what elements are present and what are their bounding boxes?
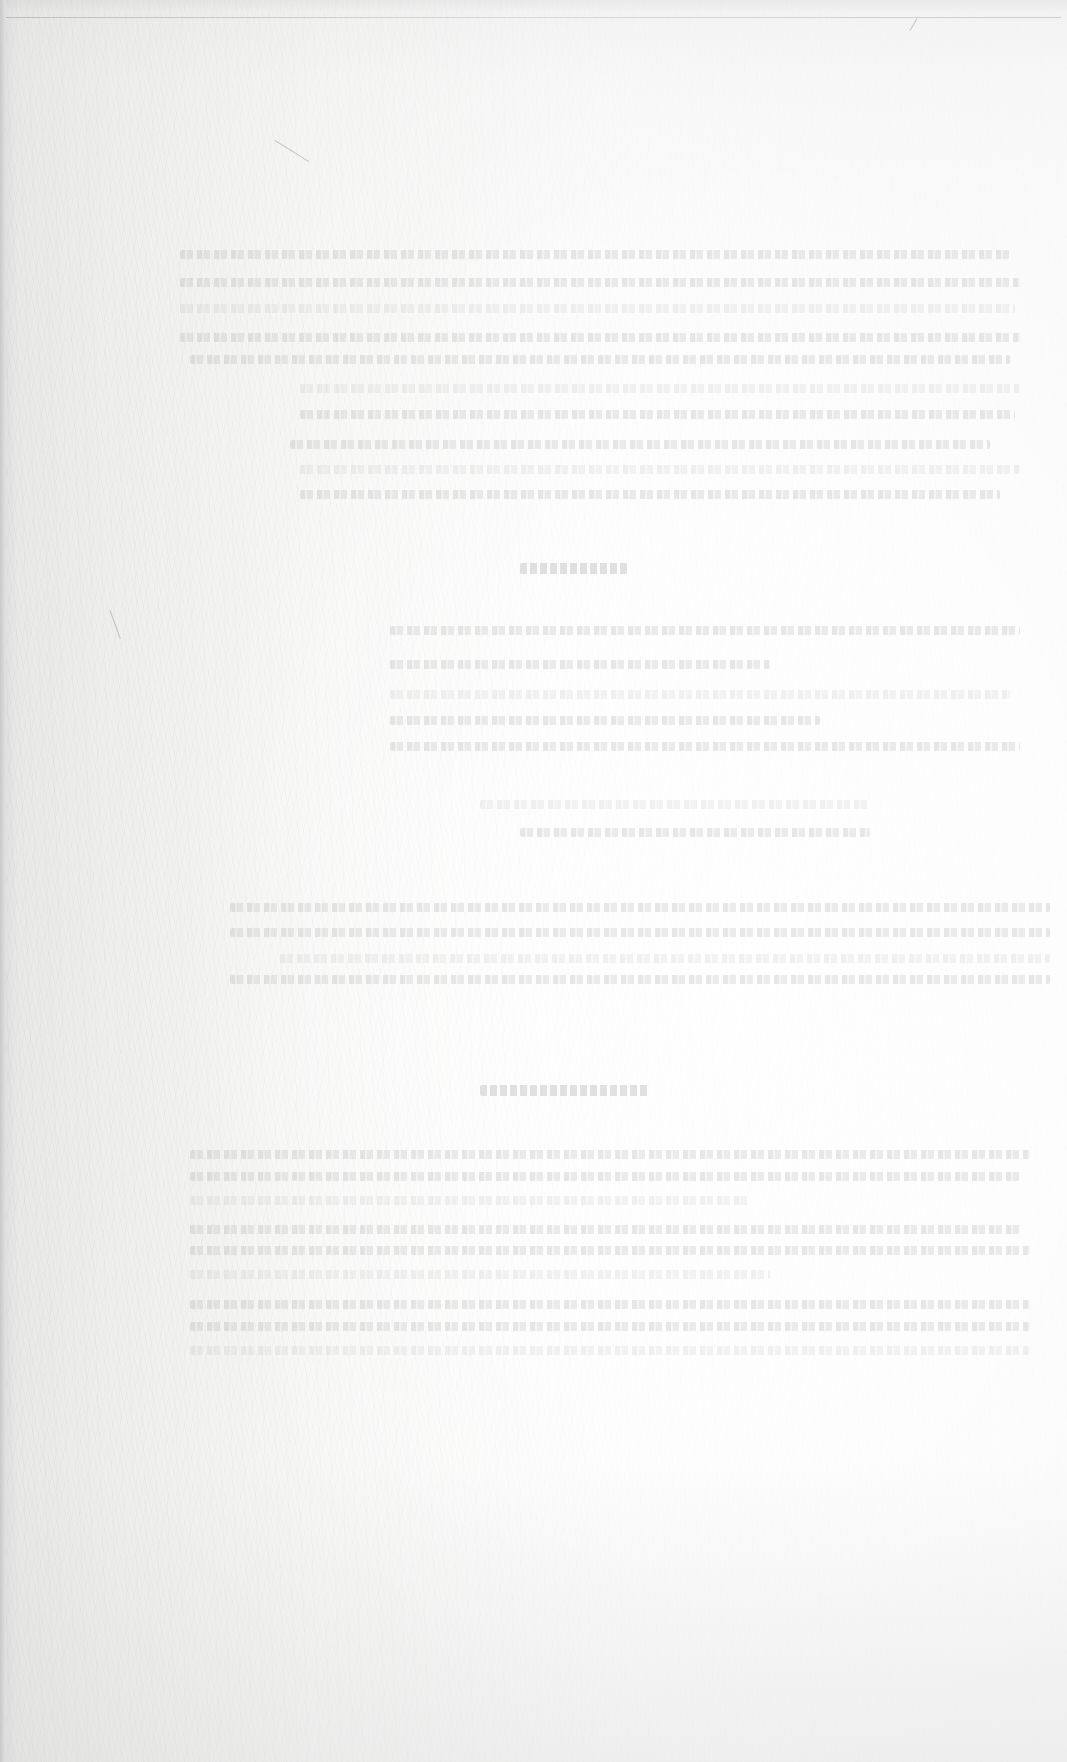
text-line: [illegible] xyxy=(300,465,1020,474)
text-line: [illegible] xyxy=(390,742,1020,751)
scanned-page: [illegible][illegible][illegible][illegi… xyxy=(0,0,1067,1762)
text-line: [illegible] xyxy=(280,954,1050,963)
text-line: [illegible] xyxy=(300,384,1020,393)
text-line: [illegible] xyxy=(180,333,1020,342)
text-line: [illegible] xyxy=(290,440,990,449)
text-line: [illegible] xyxy=(230,975,1050,984)
text-line: [illegible] xyxy=(190,1225,1020,1234)
text-line: [illegible] xyxy=(480,800,870,809)
text-line: [illegible] xyxy=(390,690,1010,699)
text-line: [illegible] xyxy=(190,1246,1030,1255)
text-line: [illegible] xyxy=(190,1300,1030,1309)
text-line: [illegible] xyxy=(390,660,770,669)
text-line: [illegible] xyxy=(190,1150,1030,1159)
text-line: [illegible] xyxy=(190,1322,1030,1331)
page-top-edge xyxy=(6,17,1061,18)
text-line: [illegible] xyxy=(180,278,1020,287)
text-line: [illegible] xyxy=(180,250,1010,259)
text-line: [illegible] xyxy=(190,1196,750,1205)
page-left-edge xyxy=(0,0,6,1762)
bottom-shadow xyxy=(0,1462,1067,1762)
top-shadow xyxy=(0,0,1067,260)
text-line: [illegible] xyxy=(390,716,820,725)
text-line: [illegible] xyxy=(390,626,1020,635)
text-line: [illegible] xyxy=(180,304,1015,313)
text-line: [illegible] xyxy=(230,903,1050,912)
text-line: [illegible] xyxy=(480,1085,650,1096)
text-line: [illegible] xyxy=(300,490,1000,499)
text-line: [illegible] xyxy=(190,1346,1030,1355)
text-line: [illegible] xyxy=(190,355,1010,364)
text-line: [illegible] xyxy=(190,1172,1020,1181)
text-line: [illegible] xyxy=(520,828,870,837)
text-line: [illegible] xyxy=(300,410,1015,419)
text-line: [illegible] xyxy=(190,1270,770,1279)
text-line: [illegible] xyxy=(230,928,1050,937)
text-line: [illegible] xyxy=(520,563,630,574)
